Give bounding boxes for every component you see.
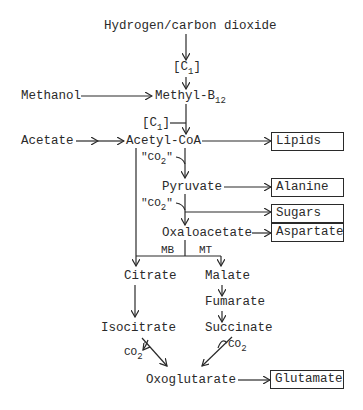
- co2-quote-1-main: "CO: [141, 151, 161, 163]
- metabolic-pathway-diagram: Hydrogen/carbon dioxide [C1] Methanol Me…: [0, 0, 363, 410]
- product-glutamate: Glutamate: [270, 370, 344, 389]
- c1-mid-close: ]: [162, 116, 170, 130]
- node-co2-quote-2: "CO2": [141, 196, 173, 211]
- arrow-isocitrate-to-oxoglutarate: [142, 338, 167, 366]
- arrow-co2-curve-1: [176, 157, 185, 164]
- node-c1-top: [C1]: [173, 60, 201, 75]
- node-citrate: Citrate: [124, 269, 177, 283]
- product-lipids: Lipids: [271, 132, 344, 151]
- node-malate: Malate: [205, 269, 250, 283]
- node-co2-right: CO2: [228, 337, 247, 352]
- node-hydrogen-co2: Hydrogen/carbon dioxide: [104, 19, 277, 33]
- methyl-b12-main: Methyl-B: [155, 89, 215, 103]
- co2-quote-2-close: ": [166, 197, 173, 209]
- node-acetyl-coa: Acetyl-CoA: [126, 134, 201, 148]
- product-aspartate: Aspartate: [271, 223, 344, 242]
- methyl-b12-sub: 12: [215, 96, 226, 106]
- co2-quote-2-sub: 2: [161, 203, 166, 213]
- c1-main: [C: [173, 60, 188, 74]
- node-methyl-b12: Methyl-B12: [155, 89, 226, 104]
- node-c1-mid: [C1]: [142, 116, 170, 131]
- node-oxoglutarate: Oxoglutarate: [146, 373, 236, 387]
- c1-sub: 1: [188, 67, 193, 77]
- label-mt: MT: [199, 243, 212, 257]
- label-mb: MB: [161, 243, 174, 257]
- co2-right-main: CO: [228, 338, 241, 350]
- node-pyruvate: Pyruvate: [162, 180, 222, 194]
- c1-mid-sub: 1: [157, 123, 162, 133]
- co2-right-sub: 2: [241, 344, 246, 354]
- c1-close: ]: [193, 60, 201, 74]
- node-co2-quote-1: "CO2": [141, 150, 173, 165]
- node-co2-left: CO2: [124, 345, 143, 360]
- node-acetate: Acetate: [21, 134, 74, 148]
- co2-quote-2-main: "CO: [141, 197, 161, 209]
- arrow-co2-curve-2: [176, 203, 185, 210]
- co2-left-main: CO: [124, 346, 137, 358]
- product-sugars: Sugars: [271, 204, 344, 223]
- co2-left-sub: 2: [137, 352, 142, 362]
- co2-quote-1-sub: 2: [161, 157, 166, 167]
- node-isocitrate: Isocitrate: [101, 321, 176, 335]
- product-alanine: Alanine: [271, 178, 344, 197]
- node-fumarate: Fumarate: [205, 295, 265, 309]
- c1-mid-main: [C: [142, 116, 157, 130]
- node-methanol: Methanol: [21, 89, 81, 103]
- co2-quote-1-close: ": [166, 151, 173, 163]
- node-oxaloacetate: Oxaloacetate: [162, 226, 252, 240]
- node-succinate: Succinate: [205, 321, 273, 335]
